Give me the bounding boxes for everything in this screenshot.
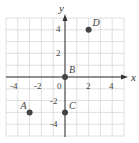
point-b [62,74,68,80]
x-tick: 2 [86,81,91,91]
y-tick: -4 [50,119,58,129]
x-tick: -2 [34,81,42,91]
point-label-d: D [92,17,101,28]
point-label-b: B [69,64,75,75]
point-label-c: C [69,100,76,111]
x-tick: 0 [57,81,62,91]
coordinate-plane: x y -4 -2 0 2 4 4 2 -2 -4 ABCD [0,0,139,143]
point-a [27,109,33,115]
y-tick: -2 [50,96,58,106]
y-tick: 4 [56,24,61,34]
y-axis-label: y [58,2,64,14]
x-axis-label: x [130,71,136,83]
x-axis-arrow-icon [121,75,128,80]
y-tick: 2 [56,48,61,58]
x-tick: 4 [109,81,114,91]
point-c [62,109,68,115]
y-axis-arrow-icon [63,14,68,21]
x-tick: -4 [10,81,18,91]
point-label-a: A [20,100,28,111]
point-d [86,27,92,33]
